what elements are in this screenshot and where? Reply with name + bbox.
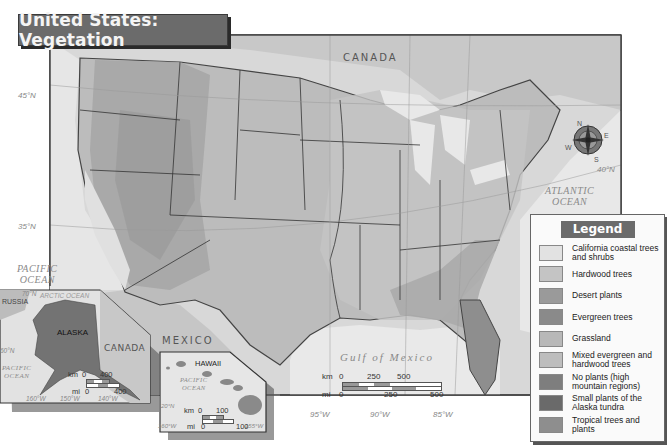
- label-canada: CANADA: [343, 52, 398, 63]
- alaska-lat-70: 70°N: [22, 290, 37, 297]
- alaska-lon-140: 140°W: [98, 395, 118, 402]
- legend-label: Tropical trees and plants: [572, 416, 664, 434]
- label-lat-35: 35°N: [18, 222, 36, 231]
- compass-n: N: [577, 120, 582, 127]
- hawaii-inset: HAWAII PACIFIC OCEAN 20°N 160°W 155°W km…: [160, 352, 266, 432]
- alaska-label-pacific: PACIFIC OCEAN: [2, 364, 31, 380]
- legend-item-no-plants: No plants (high mountain regions): [531, 371, 664, 393]
- scale-mi-500: 500: [430, 390, 443, 399]
- alaska-title: ALASKA: [57, 328, 88, 337]
- vegetation-map: United States: Vegetation CANADA MEXICO …: [0, 0, 667, 446]
- compass-s: S: [594, 156, 599, 163]
- legend-label: Evergreen trees: [572, 313, 632, 322]
- alaska-scale-km-400: 400: [100, 370, 113, 379]
- scale-km-250: 250: [367, 372, 380, 381]
- legend-item-tropical: Tropical trees and plants: [531, 414, 664, 436]
- scale-mi-250: 250: [384, 390, 397, 399]
- compass-e: E: [604, 132, 609, 139]
- legend-title: Legend: [561, 221, 635, 238]
- alaska-label-arctic-ocean: ARCTIC OCEAN: [40, 292, 89, 299]
- hawaii-pacific-line2: OCEAN: [180, 384, 208, 392]
- legend-label: No plants (high mountain regions): [572, 373, 664, 391]
- label-gulf-of-mexico: Gulf of Mexico: [340, 352, 434, 363]
- legend-label: Grassland: [572, 334, 611, 343]
- label-atlantic-ocean: ATLANTIC OCEAN: [545, 185, 594, 207]
- label-pacific-line1: PACIFIC: [17, 263, 58, 274]
- alaska-scale-bar: km 0 400 mi 0 400: [68, 370, 138, 396]
- label-lat-40: 40°N: [597, 165, 615, 174]
- scale-mi-0: 0: [339, 390, 343, 399]
- legend-swatch: [539, 331, 563, 347]
- alaska-pacific-line1: PACIFIC: [2, 364, 31, 372]
- alaska-scale-mi-label: mi: [72, 387, 80, 396]
- hawaii-scale-mi-100: 100: [236, 422, 249, 431]
- alaska-lon-160: 160°W: [26, 395, 46, 402]
- compass-w: W: [565, 144, 572, 151]
- legend-item-desert: Desert plants: [531, 285, 664, 307]
- legend-swatch: [539, 309, 563, 325]
- scale-mi-label: mi: [322, 390, 330, 399]
- alaska-label-russia: RUSSIA: [2, 298, 28, 305]
- legend-label: California coastal trees and shrubs: [572, 244, 664, 262]
- legend-item-california-coastal: California coastal trees and shrubs: [531, 242, 664, 264]
- label-lat-45: 45°N: [18, 91, 36, 100]
- hawaii-lon-160: 160°W: [158, 423, 176, 429]
- scale-km-label: km: [322, 372, 333, 381]
- map-title-text: United States: Vegetation: [19, 10, 227, 50]
- alaska-lat-60: 60°N: [0, 347, 15, 354]
- label-pacific-ocean: PACIFIC OCEAN: [17, 263, 58, 285]
- label-lon-95: 95°W: [310, 410, 330, 419]
- legend-swatch: [539, 288, 563, 304]
- scale-km-500: 500: [397, 372, 410, 381]
- legend-swatch: [539, 395, 563, 411]
- hawaii-scale-mi-0: 0: [201, 422, 205, 431]
- label-pacific-line2: OCEAN: [17, 274, 58, 285]
- alaska-scale-mi-0: 0: [85, 387, 89, 396]
- alaska-scale-km-0: 0: [82, 370, 86, 379]
- legend-swatch: [539, 374, 563, 390]
- scale-km-0: 0: [339, 372, 343, 381]
- alaska-scale-km-label: km: [68, 370, 78, 379]
- label-lon-85: 85°W: [433, 410, 453, 419]
- alaska-inset: RUSSIA ARCTIC OCEAN ALASKA CANADA PACIFI…: [0, 290, 155, 405]
- hawaii-scale-mi-label: mi: [187, 422, 195, 431]
- hawaii-scale-bar: km 0 100 mi 0 100: [184, 406, 244, 430]
- legend-label: Mixed evergreen and hardwood trees: [572, 351, 664, 369]
- legend-swatch: [539, 266, 563, 282]
- alaska-pacific-line2: OCEAN: [2, 372, 31, 380]
- label-lon-90: 90°W: [370, 410, 390, 419]
- legend-label: Hardwood trees: [572, 270, 632, 279]
- legend: Legend California coastal trees and shru…: [530, 214, 665, 442]
- legend-item-tundra: Small plants of the Alaska tundra: [531, 393, 664, 415]
- label-mexico: MEXICO: [162, 335, 214, 346]
- legend-item-mixed: Mixed evergreen and hardwood trees: [531, 350, 664, 372]
- legend-item-grassland: Grassland: [531, 328, 664, 350]
- alaska-lon-150: 150°W: [60, 395, 80, 402]
- hawaii-lat-20: 20°N: [161, 403, 174, 409]
- hawaii-pacific-line1: PACIFIC: [180, 376, 208, 384]
- label-atlantic-line1: ATLANTIC: [545, 185, 594, 196]
- hawaii-title: HAWAII: [195, 359, 221, 368]
- alaska-label-canada: CANADA: [104, 343, 145, 353]
- legend-item-evergreen: Evergreen trees: [531, 307, 664, 329]
- legend-label: Desert plants: [572, 291, 622, 300]
- map-title: United States: Vegetation: [18, 14, 228, 46]
- legend-item-hardwood: Hardwood trees: [531, 264, 664, 286]
- legend-swatch: [539, 245, 563, 261]
- legend-swatch: [539, 352, 563, 368]
- main-scale-bar: km 0 250 500 mi 0 250 500: [322, 372, 442, 402]
- hawaii-scale-km-label: km: [184, 406, 194, 415]
- legend-label: Small plants of the Alaska tundra: [572, 394, 664, 412]
- hawaii-label-pacific: PACIFIC OCEAN: [180, 376, 208, 392]
- hawaii-scale-km-100: 100: [216, 406, 229, 415]
- legend-swatch: [539, 417, 563, 433]
- alaska-scale-mi-400: 400: [114, 387, 127, 396]
- label-atlantic-line2: OCEAN: [545, 196, 594, 207]
- hawaii-scale-km-0: 0: [198, 406, 202, 415]
